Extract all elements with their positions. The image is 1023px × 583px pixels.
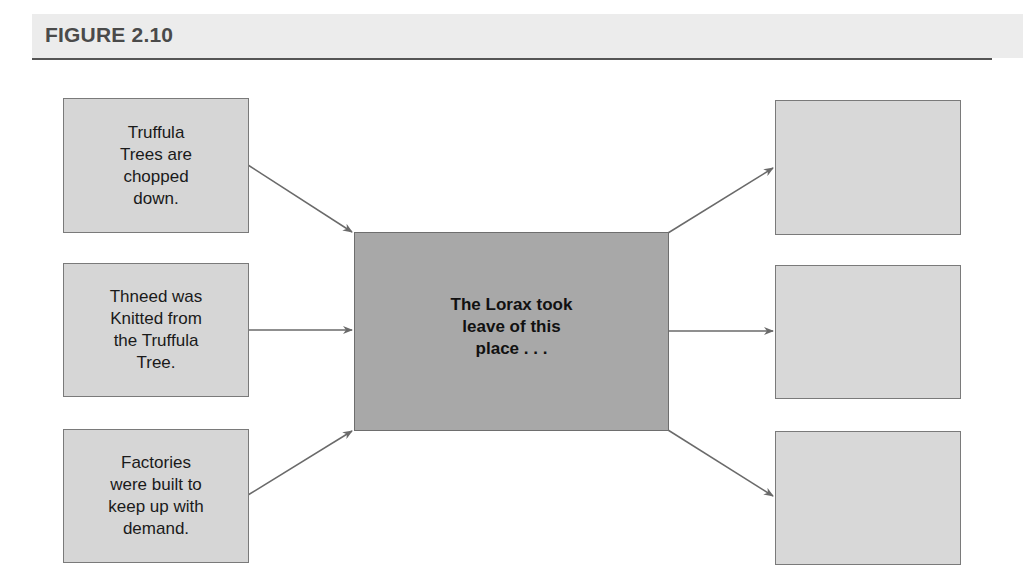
center-event-box: The Lorax took leave of this place . . . bbox=[354, 232, 669, 431]
figure-title: FIGURE 2.10 bbox=[45, 23, 173, 47]
effect-box-3 bbox=[775, 431, 961, 565]
effect-box-1 bbox=[775, 100, 961, 235]
figure-title-band: FIGURE 2.10 bbox=[32, 14, 1023, 58]
cause-box-3: Factories were built to keep up with dem… bbox=[63, 429, 249, 563]
cause-box-2-text: Thneed was Knitted from the Truffula Tre… bbox=[64, 286, 248, 374]
arrow-effect-1 bbox=[668, 168, 773, 233]
center-event-text: The Lorax took leave of this place . . . bbox=[355, 294, 668, 360]
arrow-effect-3 bbox=[668, 430, 773, 496]
cause-box-2: Thneed was Knitted from the Truffula Tre… bbox=[63, 263, 249, 397]
cause-box-1: Truffula Trees are chopped down. bbox=[63, 98, 249, 233]
cause-box-3-text: Factories were built to keep up with dem… bbox=[64, 452, 248, 540]
arrow-cause-3 bbox=[248, 431, 352, 495]
title-divider bbox=[32, 58, 992, 60]
effect-box-2 bbox=[775, 265, 961, 399]
cause-box-1-text: Truffula Trees are chopped down. bbox=[64, 122, 248, 210]
arrow-cause-1 bbox=[248, 165, 352, 232]
